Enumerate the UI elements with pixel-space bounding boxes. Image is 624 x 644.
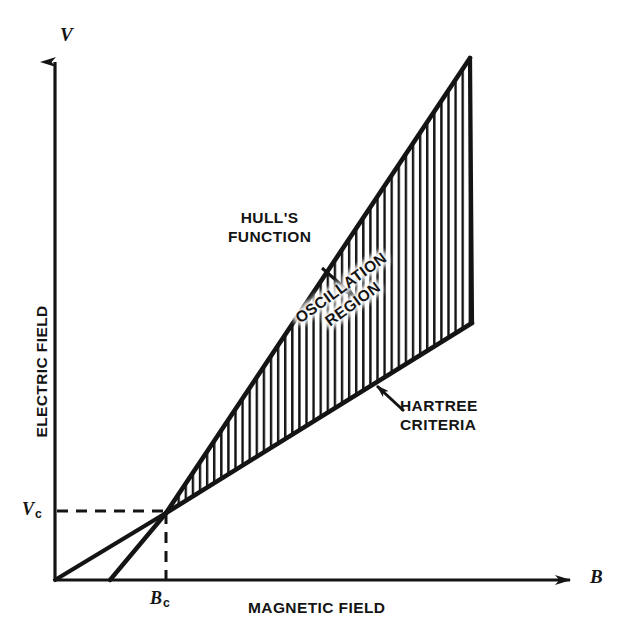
hulls-function-label-line1: HULL'S xyxy=(241,209,299,226)
hartree-criteria-label-line2: CRITERIA xyxy=(400,416,476,433)
y-axis-symbol: V xyxy=(60,24,73,46)
bc-axis-label: Bc xyxy=(150,588,170,610)
hulls-function-label-line2: FUNCTION xyxy=(228,228,311,245)
vc-subscript: c xyxy=(35,507,42,521)
lower-branch-from-origin xyxy=(55,513,166,580)
lower-branch-secondary xyxy=(110,512,167,580)
hartree-criteria-label: HARTREECRITERIA xyxy=(400,396,478,434)
y-axis-title: ELECTRIC FIELD xyxy=(32,267,51,477)
vc-axis-label: Vc xyxy=(22,499,42,521)
vc-base: V xyxy=(22,499,34,519)
x-axis-symbol: B xyxy=(590,566,603,588)
bc-base: B xyxy=(150,588,162,608)
bc-subscript: c xyxy=(163,596,170,610)
hulls-function-label: HULL'SFUNCTION xyxy=(228,208,311,246)
x-axis-title: MAGNETIC FIELD xyxy=(248,598,385,617)
hartree-criteria-label-line1: HARTREE xyxy=(400,397,478,414)
region-right-edge xyxy=(470,58,472,323)
